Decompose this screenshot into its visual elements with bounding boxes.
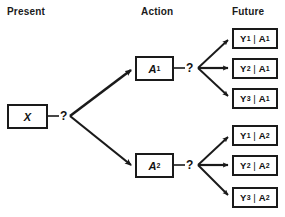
outcome-y-symbol: Y: [240, 192, 247, 203]
outcome-conditional-bar: |: [251, 160, 259, 171]
node-outcome-y2a2: Y2|A2: [232, 155, 278, 176]
outcome-a-subscript: 2: [266, 194, 270, 201]
node-action-a2: A2: [135, 153, 174, 178]
outcome-a-symbol: A: [259, 63, 266, 74]
outcome-a-symbol: A: [259, 130, 266, 141]
outcome-y-symbol: Y: [240, 63, 247, 74]
node-outcome-y3a1: Y3|A1: [232, 88, 278, 109]
outcome-conditional-bar: |: [251, 63, 259, 74]
node-action-a1-subscript: 1: [157, 65, 161, 72]
outcome-conditional-bar: |: [251, 192, 259, 203]
node-action-a1-label: A: [149, 63, 157, 75]
edge-a2-to-y1a2: [198, 137, 228, 165]
node-action-a2-label: A: [149, 160, 157, 172]
outcome-a-subscript: 2: [266, 162, 270, 169]
node-action-a2-subscript: 2: [157, 162, 161, 169]
edge-a1-to-y1a1: [198, 40, 228, 68]
outcome-conditional-bar: |: [251, 130, 259, 141]
node-outcome-y1a1: Y1|A1: [232, 28, 278, 49]
outcome-a-subscript: 1: [266, 65, 270, 72]
outcome-a-subscript: 1: [266, 95, 270, 102]
decision-mark-after-a1: ?: [186, 62, 193, 74]
node-action-a1: A1: [135, 56, 174, 81]
node-outcome-y3a2: Y3|A2: [232, 187, 278, 208]
edge-root-to-a2: [70, 116, 131, 165]
outcome-y-symbol: Y: [240, 130, 247, 141]
decision-mark-root: ?: [60, 110, 67, 122]
edge-a2-to-y3a2: [198, 165, 228, 195]
edge-root-to-a1: [70, 70, 131, 116]
outcome-a-subscript: 1: [266, 35, 270, 42]
decision-tree-diagram: Present Action Future X ?: [0, 0, 285, 217]
node-outcome-y1a2: Y1|A2: [232, 125, 278, 146]
outcome-y-symbol: Y: [240, 93, 247, 104]
outcome-a-symbol: A: [259, 33, 266, 44]
outcome-a-symbol: A: [259, 192, 266, 203]
node-present-x: X: [7, 104, 48, 129]
outcome-a-symbol: A: [259, 160, 266, 171]
edge-a1-to-y3a1: [198, 68, 228, 96]
decision-mark-after-a2: ?: [186, 159, 193, 171]
outcome-y-symbol: Y: [240, 33, 247, 44]
outcome-a-subscript: 2: [266, 132, 270, 139]
outcome-conditional-bar: |: [251, 93, 259, 104]
outcome-conditional-bar: |: [251, 33, 259, 44]
node-outcome-y2a1: Y2|A1: [232, 58, 278, 79]
outcome-a-symbol: A: [259, 93, 266, 104]
outcome-y-symbol: Y: [240, 160, 247, 171]
node-present-x-label: X: [24, 111, 31, 123]
